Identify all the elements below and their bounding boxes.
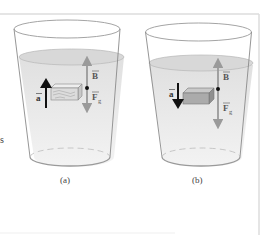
edge-text-fragment: s [0, 134, 4, 145]
water-body [19, 57, 124, 167]
center-of-mass-dot [85, 86, 89, 90]
water-body [149, 65, 253, 167]
figure-canvas: a B F g (a) a [0, 0, 267, 235]
panel-b: a B F g (b) [146, 23, 254, 185]
acceleration-label: a [169, 89, 174, 99]
wooden-block [51, 84, 82, 100]
panel-a: a B F g (a) [14, 20, 124, 185]
metal-block [183, 88, 214, 104]
caption-b: (b) [192, 175, 203, 185]
water-surface [19, 49, 124, 65]
buoyant-force-label: B [223, 72, 229, 82]
acceleration-label: a [36, 93, 41, 103]
water-surface [149, 55, 253, 71]
caption-a: (a) [60, 175, 70, 185]
buoyant-force-label: B [92, 71, 98, 81]
center-of-mass-dot [216, 87, 220, 91]
